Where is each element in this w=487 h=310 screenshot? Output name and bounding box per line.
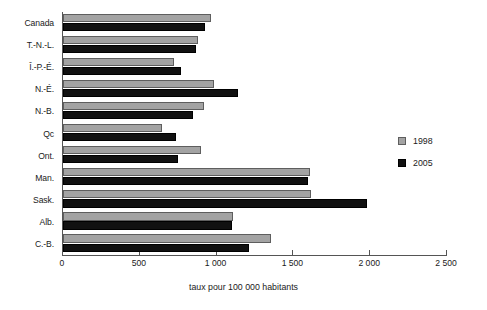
- category-label: Qc: [43, 129, 54, 139]
- bar-1998: [63, 102, 204, 110]
- bar-1998: [63, 168, 310, 176]
- bar-2005: [63, 244, 249, 252]
- category-label: Î.-P.-É.: [29, 62, 54, 72]
- bar-1998: [63, 146, 201, 154]
- square-black-swatch-icon: [398, 159, 406, 167]
- bar-2005: [63, 133, 176, 141]
- bar-group: [63, 122, 447, 144]
- bar-group: [63, 56, 447, 78]
- chart-legend: 1998 2005: [398, 133, 478, 177]
- legend-item-2005: 2005: [398, 155, 478, 171]
- bar-1998: [63, 124, 162, 132]
- x-axis-title: taux pour 100 000 habitants: [0, 282, 487, 292]
- x-axis-tick-label: 2 000: [358, 258, 380, 269]
- x-axis-tick-label: 500: [132, 258, 146, 269]
- category-label: Alb.: [40, 217, 54, 227]
- bar-2005: [63, 155, 178, 163]
- category-label: T.-N.-L.: [27, 40, 54, 50]
- bar-2005: [63, 23, 205, 31]
- bar-2005: [63, 45, 196, 53]
- category-label: Canada: [24, 18, 54, 28]
- bar-group: [63, 145, 447, 167]
- category-label: Man.: [35, 173, 54, 183]
- bar-group: [63, 233, 447, 255]
- bar-1998: [63, 212, 233, 220]
- bar-2005: [63, 89, 238, 97]
- bar-group: [63, 12, 447, 34]
- legend-label: 2005: [413, 158, 433, 168]
- x-axis-tick-label: 1 500: [282, 258, 304, 269]
- bar-1998: [63, 36, 198, 44]
- bar-2005: [63, 177, 308, 185]
- bar-1998: [63, 234, 271, 242]
- square-gray-swatch-icon: [398, 137, 406, 145]
- bar-group: [63, 189, 447, 211]
- category-label: C.-B.: [35, 239, 54, 249]
- category-label: Sask.: [33, 195, 54, 205]
- bar-2005: [63, 67, 181, 75]
- x-axis-tick-label: 2 500: [435, 258, 457, 269]
- bar-1998: [63, 80, 214, 88]
- bar-1998: [63, 14, 211, 22]
- plot-area: [62, 12, 446, 255]
- bar-group: [63, 100, 447, 122]
- bar-group: [63, 34, 447, 56]
- bar-chart: CanadaT.-N.-L.Î.-P.-É.N.-É.N.-B.QcOnt.Ma…: [0, 0, 487, 310]
- bar-group: [63, 167, 447, 189]
- x-axis-line: [62, 255, 447, 256]
- x-axis-tick-label: 1 000: [205, 258, 227, 269]
- bar-group: [63, 211, 447, 233]
- bar-1998: [63, 58, 174, 66]
- bar-2005: [63, 111, 193, 119]
- bar-1998: [63, 190, 311, 198]
- category-label: Ont.: [38, 151, 54, 161]
- category-label: N.-É.: [35, 84, 54, 94]
- bar-2005: [63, 221, 232, 229]
- category-axis-labels: CanadaT.-N.-L.Î.-P.-É.N.-É.N.-B.QcOnt.Ma…: [0, 12, 58, 255]
- x-axis-tick-label: 0: [60, 258, 65, 269]
- legend-item-1998: 1998: [398, 133, 478, 149]
- bar-group: [63, 78, 447, 100]
- category-label: N.-B.: [35, 106, 54, 116]
- bar-2005: [63, 199, 367, 207]
- x-axis-tick-labels: 05001 0001 5002 0002 500: [0, 258, 487, 272]
- legend-label: 1998: [413, 136, 433, 146]
